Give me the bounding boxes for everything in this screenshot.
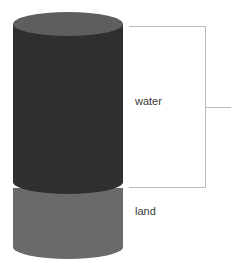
land-segment [13,188,123,259]
water-bracket [129,27,231,188]
cylinder-diagram [0,0,231,261]
land-label: land [135,205,156,217]
water-segment [13,24,123,194]
cylinder-top [13,12,123,36]
water-label: water [135,95,162,107]
